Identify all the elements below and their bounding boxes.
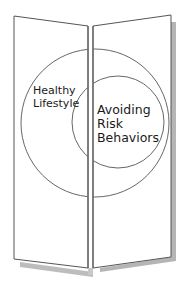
brochure-diagram: Healthy Lifestyle Avoiding Risk Behavior… [0,0,187,287]
outer-circle-label: Healthy Lifestyle [33,84,79,110]
